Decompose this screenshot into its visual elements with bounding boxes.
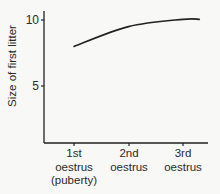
litter-size-curve	[74, 19, 199, 47]
x-tick-label-line: oestrus	[110, 161, 148, 175]
litter-size-chart: Size of first litter 10 5 1st oestrus (p…	[0, 0, 220, 194]
x-tick-label-line: 2nd	[110, 147, 148, 161]
x-tick-label-line: 1st	[51, 147, 97, 161]
x-tick-label-line: 3rd	[164, 147, 202, 161]
x-tick-label-line: oestrus	[164, 161, 202, 175]
x-tick-label-1st-oestrus: 1st oestrus (puberty)	[51, 147, 97, 188]
x-tick-label-2nd-oestrus: 2nd oestrus	[110, 147, 148, 174]
y-tick-label-5: 5	[32, 80, 39, 92]
x-tick-label-3rd-oestrus: 3rd oestrus	[164, 147, 202, 174]
y-tick-label-10: 10	[26, 14, 39, 26]
x-tick-label-line: (puberty)	[51, 174, 97, 188]
y-axis-label: Size of first litter	[6, 25, 18, 107]
x-tick-label-line: oestrus	[51, 161, 97, 175]
